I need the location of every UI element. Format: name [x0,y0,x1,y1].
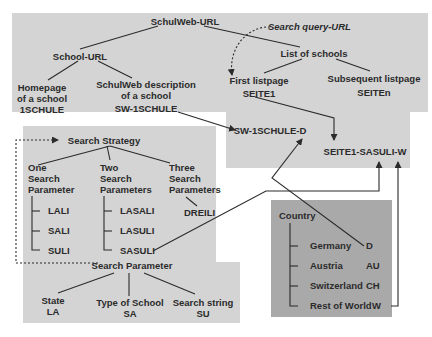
param-name: Search string [170,297,236,308]
schulweb-url-node: SchulWeb-URL [140,16,230,27]
param-search-string: Search string SU [170,297,236,319]
strategy-item-lali: LALI [48,205,69,216]
param-name: State [30,295,76,306]
heading-line: Three [169,162,221,173]
param-name: Type of School [96,297,164,308]
search-strategy-title: Search Strategy [64,135,144,146]
param-code: SA [96,308,164,319]
subsequent-listpage-line1: Subsequent listpage [326,73,422,84]
heading-line: Search [100,173,152,184]
strategy-item-lasuli: LASULI [120,225,154,236]
heading-line: Two [100,162,152,173]
heading-line: Parameter [28,184,74,195]
homepage-line3: 1SCHULE [12,104,72,115]
list-of-schools-node: List of schools [276,48,352,59]
search-parameter-title: Search Parameter [90,260,174,271]
strategy-group-three-heading: Three Search Parameters [169,162,221,195]
seite1-sasuli-w-node: SEITE1-SASULI-W [318,146,412,157]
country-rest-of-world-code: W [372,300,381,311]
heading-line: Search [169,173,221,184]
subsequent-listpage-line2: SEITEn [326,87,422,98]
country-switzerland-name: Switzerland [310,280,363,291]
param-state: State LA [30,295,76,317]
homepage-line2: of a school [12,93,72,104]
country-rest-of-world-name: Rest of World [310,300,372,311]
heading-line: Parameters [169,184,221,195]
heading-line: Search [28,173,74,184]
heading-line: One [28,162,74,173]
strategy-group-one-heading: One Search Parameter [28,162,74,195]
schulweb-description-node: SchulWeb description of a school SW-1SCH… [94,79,198,114]
strategy-item-lasali: LASALI [120,205,154,216]
strategy-group-two-heading: Two Search Parameters [100,162,152,195]
first-listpage-line2: SEITE1 [224,88,294,99]
strategy-item-suli: SULI [48,245,70,256]
country-title: Country [279,210,315,221]
country-austria-name: Austria [310,260,343,271]
strategy-item-sasuli: SASULI [120,245,155,256]
subsequent-listpage-node: Subsequent listpage SEITEn [326,73,422,98]
heading-line: Parameters [100,184,152,195]
sw-1schule-d-node: SW-1SCHULE-D [230,125,310,136]
country-germany-code: D [366,240,373,251]
param-type-of-school: Type of School SA [96,297,164,319]
search-query-url-label: Search query-URL [268,21,348,32]
homepage-node: Homepage of a school 1SCHULE [12,82,72,115]
school-url-node: School-URL [50,51,110,62]
description-line3: SW-1SCHULE [94,103,198,114]
param-code: SU [170,308,236,319]
strategy-item-dreili: DREILI [184,207,215,218]
first-listpage-line1: First listpage [224,75,294,86]
description-line1: SchulWeb description [94,79,198,90]
country-austria-code: AU [366,260,380,271]
country-germany-name: Germany [310,240,351,251]
country-switzerland-code: CH [366,280,380,291]
description-line2: of a school [94,90,198,101]
strategy-item-sali: SALI [48,225,70,236]
homepage-line1: Homepage [12,82,72,93]
param-code: LA [30,306,76,317]
first-listpage-node: First listpage SEITE1 [224,75,294,99]
